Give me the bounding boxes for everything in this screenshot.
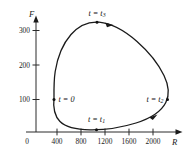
annotation-t0-base: t = xyxy=(59,95,71,104)
marker-dot-t0 xyxy=(53,98,56,101)
annotation-t3-base: t = t xyxy=(88,9,103,18)
annotation-t0: t = 0 xyxy=(59,95,75,104)
x-tick-label-2000: 2000 xyxy=(146,137,161,146)
y-tick-label-200: 200 xyxy=(19,61,30,70)
annotation-t1-base: t = t xyxy=(88,115,103,124)
annotation-t2-sub: 2 xyxy=(161,99,164,105)
x-axis-arrow-icon xyxy=(176,129,183,134)
x-tick-label-1200: 1200 xyxy=(98,137,113,146)
annotation-group: t = 0 t = t1 t = t2 t = t3 xyxy=(59,9,164,125)
annotation-t3: t = t3 xyxy=(88,9,105,18)
x-tick-label-400: 400 xyxy=(51,137,62,146)
axes-group xyxy=(26,16,183,135)
x-tick-group: 400 800 1200 1600 2000 xyxy=(51,129,160,146)
y-axis-label: F xyxy=(28,9,35,19)
phase-plane-figure: 300 200 100 400 800 1200 1600 2000 F R 0 xyxy=(0,0,193,155)
annotation-t1: t = t1 xyxy=(88,115,105,124)
direction-arrow-upper-right-icon xyxy=(105,23,113,28)
marker-group xyxy=(53,21,170,132)
annotation-t3-sub: 3 xyxy=(102,12,106,18)
marker-dot-t3 xyxy=(96,21,99,24)
y-tick-label-100: 100 xyxy=(19,95,30,104)
trajectory-curve xyxy=(54,22,169,130)
y-tick-label-300: 300 xyxy=(19,26,30,35)
origin-label: 0 xyxy=(25,137,29,146)
trajectory-curve-group xyxy=(54,22,169,130)
annotation-t2: t = t2 xyxy=(146,95,163,104)
annotation-t0-sub: 0 xyxy=(70,95,74,104)
x-tick-label-800: 800 xyxy=(75,137,86,146)
predator-prey-phase-plot: 300 200 100 400 800 1200 1600 2000 F R 0 xyxy=(0,0,193,155)
annotation-t1-sub: 1 xyxy=(102,118,105,124)
marker-dot-t2 xyxy=(166,98,169,101)
annotation-t2-base: t = t xyxy=(146,95,161,104)
marker-dot-t1 xyxy=(95,128,98,131)
x-tick-label-1600: 1600 xyxy=(122,137,137,146)
x-axis-label: R xyxy=(171,137,178,147)
